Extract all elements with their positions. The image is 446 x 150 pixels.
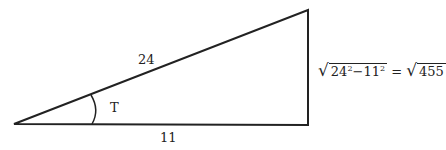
right-triangle [14,10,308,125]
angle-arc [91,95,96,124]
hypotenuse-formula: √242−112 = √455 [318,60,446,80]
base-label: 11 [160,130,177,145]
angle-label: T [110,100,119,115]
hypotenuse-label: 24 [138,52,155,67]
radical-sign: √ [318,60,329,80]
radical-sign: √ [406,60,417,80]
